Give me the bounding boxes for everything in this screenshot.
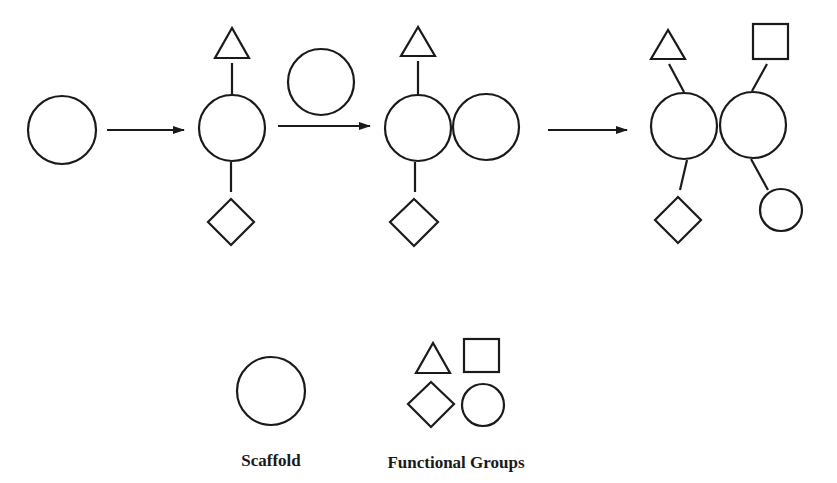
circle-group-icon — [760, 189, 802, 231]
step4-molecule — [651, 24, 802, 243]
legend-functional-groups — [408, 339, 504, 427]
legend-scaffold-icon — [237, 357, 305, 425]
step3-molecule — [385, 27, 519, 246]
scaffold-circle-second — [720, 92, 786, 158]
legend-triangle-icon — [416, 343, 450, 373]
scaffold-circle-step1 — [28, 96, 96, 164]
bond-line — [751, 159, 768, 190]
legend-diamond-icon — [408, 382, 454, 427]
bond-line — [669, 64, 684, 92]
scaffold-label: Scaffold — [241, 451, 301, 471]
step2-molecule — [199, 28, 265, 245]
bond-line — [752, 64, 767, 91]
scaffold-circle — [651, 93, 717, 159]
scheme-diagram — [0, 0, 837, 483]
triangle-group-icon — [401, 27, 435, 56]
scaffold-circle — [199, 95, 265, 161]
triangle-group-icon — [215, 28, 249, 58]
diamond-group-icon — [390, 199, 438, 246]
diamond-group-icon — [208, 199, 254, 245]
legend-circle-icon — [462, 384, 504, 426]
bond-line — [680, 160, 687, 190]
diamond-group-icon — [655, 197, 701, 243]
reagent-scaffold-circle — [288, 49, 354, 115]
scaffold-circle — [385, 95, 451, 161]
triangle-group-icon — [651, 30, 685, 59]
functional-groups-label: Functional Groups — [387, 453, 524, 473]
legend-square-icon — [464, 339, 499, 372]
square-group-icon — [753, 24, 788, 59]
scaffold-circle-second — [453, 94, 519, 160]
